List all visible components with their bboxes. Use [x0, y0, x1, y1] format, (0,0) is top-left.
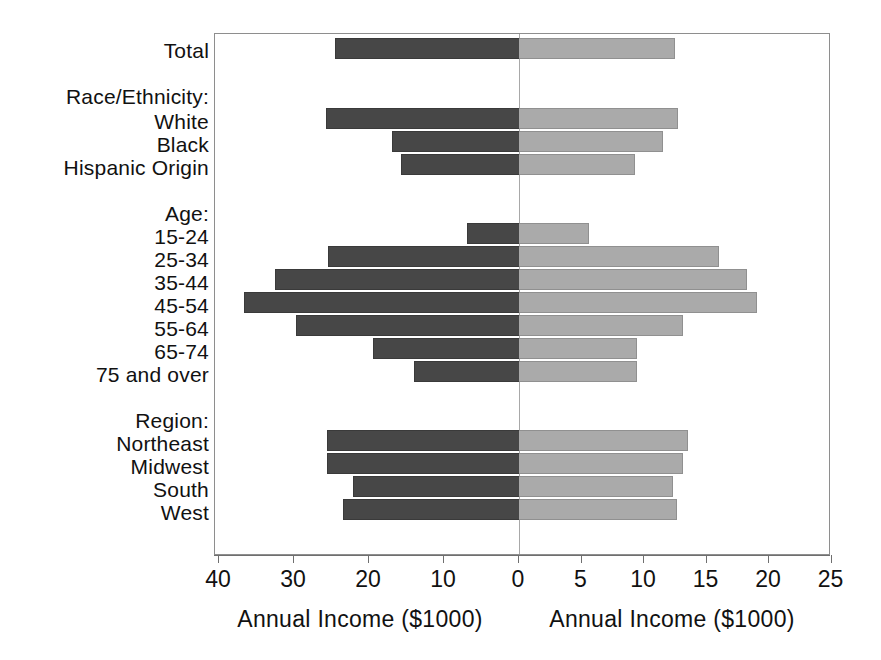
bar-right: [519, 499, 677, 520]
category-label: Race/Ethnicity:: [66, 86, 209, 107]
x-tick-label-left-30: 30: [280, 566, 306, 592]
bar-left: [373, 338, 519, 359]
x-tick-label-right-25: 25: [818, 566, 844, 592]
bar-right: [519, 223, 589, 244]
chart-figure: TotalRace/Ethnicity:WhiteBlackHispanic O…: [0, 0, 881, 660]
bar-row: [215, 292, 829, 313]
bar-row: [215, 361, 829, 382]
bar-right: [519, 315, 683, 336]
category-label: Age:: [165, 203, 209, 224]
bar-right: [519, 292, 757, 313]
bar-left: [335, 38, 519, 59]
x-tick-mark: [518, 555, 519, 563]
bar-row: [215, 246, 829, 267]
category-label: West: [161, 502, 209, 523]
x-tick-mark: [581, 555, 582, 563]
category-label: 55-64: [154, 318, 209, 339]
bar-row: [215, 223, 829, 244]
x-tick-mark: [706, 555, 707, 563]
bar-left: [328, 246, 519, 267]
bar-left: [343, 499, 519, 520]
bar-left: [327, 453, 519, 474]
bar-row: [215, 131, 829, 152]
plot-area: [214, 33, 830, 555]
bar-left: [296, 315, 519, 336]
bar-left: [327, 430, 519, 451]
bar-row: [215, 269, 829, 290]
x-tick-label-right-20: 20: [755, 566, 781, 592]
bar-left: [467, 223, 520, 244]
bar-right: [519, 453, 683, 474]
category-label: 75 and over: [96, 364, 209, 385]
bar-right: [519, 476, 673, 497]
bar-row: [215, 154, 829, 175]
bar-row: [215, 499, 829, 520]
category-label: Hispanic Origin: [64, 157, 209, 178]
bar-left: [353, 476, 519, 497]
x-tick-mark: [443, 555, 444, 563]
category-label: Northeast: [116, 433, 209, 454]
bar-right: [519, 361, 637, 382]
x-axis-line: [214, 555, 830, 556]
bar-right: [519, 38, 675, 59]
bar-right: [519, 108, 678, 129]
category-label: 65-74: [154, 341, 209, 362]
x-tick-mark: [368, 555, 369, 563]
bar-left: [326, 108, 519, 129]
bar-left: [275, 269, 519, 290]
bar-row: [215, 38, 829, 59]
x-tick-label-left-20: 20: [355, 566, 381, 592]
bar-right: [519, 338, 637, 359]
x-tick-label-left-10: 10: [430, 566, 456, 592]
bar-row: [215, 430, 829, 451]
x-tick-label-right-0: 0: [512, 566, 525, 592]
x-tick-label-right-15: 15: [693, 566, 719, 592]
bar-right: [519, 131, 663, 152]
left-axis-title: Annual Income ($1000): [237, 606, 482, 632]
x-tick-mark: [768, 555, 769, 563]
bar-right: [519, 430, 688, 451]
bar-left: [401, 154, 519, 175]
category-label: 45-54: [154, 295, 209, 316]
category-label: 15-24: [154, 226, 209, 247]
x-tick-label-right-5: 5: [574, 566, 587, 592]
x-tick-mark: [643, 555, 644, 563]
right-axis-title: Annual Income ($1000): [549, 606, 794, 632]
category-label: Total: [164, 40, 209, 61]
bar-right: [519, 246, 719, 267]
bar-right: [519, 269, 747, 290]
category-label: 35-44: [154, 272, 209, 293]
category-label: South: [153, 479, 209, 500]
bar-row: [215, 338, 829, 359]
bar-row: [215, 108, 829, 129]
bar-left: [414, 361, 519, 382]
category-label: White: [154, 111, 209, 132]
x-tick-mark: [218, 555, 219, 563]
x-tick-label-right-10: 10: [630, 566, 656, 592]
bar-left: [392, 131, 520, 152]
bar-row: [215, 476, 829, 497]
category-label: 25-34: [154, 249, 209, 270]
bar-row: [215, 453, 829, 474]
x-tick-label-left-40: 40: [205, 566, 231, 592]
category-label: Midwest: [131, 456, 209, 477]
category-label: Region:: [135, 410, 209, 431]
x-tick-mark: [293, 555, 294, 563]
bar-row: [215, 315, 829, 336]
bar-right: [519, 154, 635, 175]
category-label: Black: [157, 134, 209, 155]
bar-left: [244, 292, 519, 313]
x-tick-mark: [831, 555, 832, 563]
